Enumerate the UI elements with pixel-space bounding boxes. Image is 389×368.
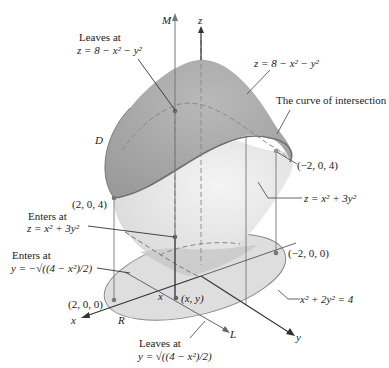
y-axis-label: y <box>296 331 301 343</box>
leader-curve <box>277 110 290 134</box>
upper-surface-label: z = 8 − x² − y² <box>254 57 319 69</box>
enters-y-eq: y = −√((4 − x²)/2) <box>11 262 92 274</box>
enters-y-title: Enters at <box>12 249 51 261</box>
line-L-label: L <box>230 328 236 340</box>
point-neg2-0-4-label: (−2, 0, 4) <box>297 159 338 171</box>
z-axis-arrow-icon <box>198 26 204 33</box>
lower-surface-label: z = x² + 3y² <box>304 192 356 204</box>
leader-ellipse <box>278 290 300 299</box>
R-label: R <box>118 314 125 326</box>
leaves-y-title: Leaves at <box>139 337 181 349</box>
enters-z-title: Enters at <box>28 210 67 222</box>
point-xy-label: (x, y) <box>181 292 204 304</box>
region-diagram: M z Leaves at z = 8 − x² − y² z = 8 − x²… <box>0 0 389 368</box>
x-tick-label: x <box>158 290 163 302</box>
diagram-svg <box>0 0 389 368</box>
point-2-0-0-label: (2, 0, 0) <box>68 298 103 310</box>
point-2-0-4 <box>112 196 117 201</box>
z-axis-label: z <box>198 14 202 26</box>
ellipse-eq-label: x² + 2y² = 4 <box>300 293 353 305</box>
x-axis-label: x <box>71 314 76 326</box>
leaves-y-eq: y = √((4 − x²)/2) <box>138 350 212 362</box>
curve-of-intersection-label: The curve of intersection <box>276 94 386 106</box>
point-neg2-0-0 <box>274 251 279 256</box>
point-2-0-0 <box>112 298 117 303</box>
D-label: D <box>95 134 103 146</box>
leader-upper-surface <box>247 70 270 94</box>
leader-leaves-y <box>190 321 205 338</box>
point-neg2-0-0-label: (−2, 0, 0) <box>288 247 329 259</box>
enters-z-eq: z = x² + 3y² <box>27 222 79 234</box>
leaves-top-eq: z = 8 − x² − y² <box>77 44 142 56</box>
line-M-arrow-icon <box>172 13 178 21</box>
point-2-0-4-label: (2, 0, 4) <box>72 198 107 210</box>
line-L-arrow-icon <box>222 326 230 333</box>
point-xy <box>174 296 179 301</box>
leaves-top-title: Leaves at <box>79 31 121 43</box>
y-axis-arrow-icon <box>286 328 295 336</box>
x-axis-arrow-icon <box>81 312 90 318</box>
line-M-label: M <box>162 14 171 26</box>
